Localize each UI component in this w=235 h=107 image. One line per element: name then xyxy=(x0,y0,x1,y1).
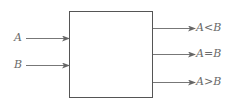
output-eq-label: A=B xyxy=(196,48,221,60)
output-lt-label: A<B xyxy=(196,22,221,34)
comparator-diagram: A B A<B A=B A>B xyxy=(0,0,235,107)
comparator-block xyxy=(70,12,153,98)
output-gt-label: A>B xyxy=(196,76,221,88)
input-b-label: B xyxy=(14,59,22,71)
input-a-label: A xyxy=(14,32,22,44)
